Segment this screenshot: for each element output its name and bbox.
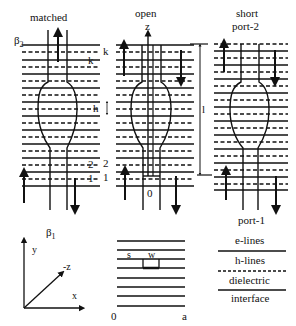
- label-h: h: [93, 102, 99, 114]
- legend: port-1 e-lines h-lines dielectric interf…: [218, 214, 286, 304]
- legend-dielectric: dielectric: [229, 274, 270, 286]
- label-k-left: k: [88, 54, 94, 66]
- panel-short: short port-2: [214, 7, 288, 210]
- label-k-mid: k: [103, 45, 109, 57]
- label-2-left: 2: [88, 158, 94, 170]
- length-dimension: l: [190, 44, 212, 175]
- label-zero-bottom: 0: [111, 310, 117, 322]
- axis-negz-label: -z: [63, 261, 71, 272]
- label-origin-0: 0: [147, 187, 153, 199]
- panel-matched: matched β2 k: [14, 11, 100, 210]
- panel-open: open z: [103, 7, 194, 210]
- title-matched: matched: [30, 11, 68, 23]
- field-lines-open: [116, 45, 194, 186]
- coordinate-axes: β1 y -z x: [24, 226, 82, 308]
- beta1-label: β1: [46, 226, 56, 241]
- label-1-mid: 1: [103, 171, 109, 183]
- label-1-left: 1: [88, 172, 94, 184]
- title-short: short: [236, 7, 258, 19]
- legend-h-lines: h-lines: [235, 254, 265, 266]
- axis-x-label: x: [72, 290, 77, 301]
- beta2-label: β2: [14, 34, 24, 49]
- label-z: z: [145, 20, 150, 32]
- label-length-l: l: [202, 103, 205, 115]
- title-port2: port-2: [232, 20, 259, 32]
- label-port1: port-1: [238, 214, 265, 226]
- axis-y-label: y: [32, 244, 37, 255]
- label-w: w: [148, 249, 156, 260]
- field-lines-short: [214, 44, 288, 190]
- fin-outline-short: [230, 44, 269, 210]
- finline-field-diagram: matched β2 k: [0, 0, 296, 326]
- legend-e-lines: e-lines: [235, 234, 264, 246]
- label-a: a: [182, 310, 187, 322]
- label-s: s: [127, 249, 131, 260]
- title-open: open: [135, 7, 157, 19]
- legend-interface: interface: [231, 292, 270, 304]
- label-2-mid: 2: [103, 157, 109, 169]
- fin-outline-open: [131, 45, 171, 210]
